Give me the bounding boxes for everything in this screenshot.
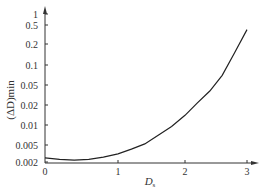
y-tick-label: 0.02 bbox=[21, 100, 39, 111]
x-tick-label: 3 bbox=[245, 166, 250, 177]
y-tick-label: 0.2 bbox=[26, 39, 39, 50]
data-curve bbox=[45, 30, 247, 161]
x-tick-label: 1 bbox=[116, 166, 121, 177]
y-tick-label: 0.1 bbox=[26, 60, 39, 71]
y-tick-label: 0.005 bbox=[16, 140, 39, 151]
chart: 10.50.20.10.050.020.010.0050.002 0123 (Δ… bbox=[0, 0, 263, 192]
x-axis-label: Ds bbox=[144, 175, 156, 189]
y-axis-label: (ΔD)min bbox=[4, 80, 17, 120]
y-tick-label: 0.5 bbox=[26, 20, 39, 31]
y-tick-label: 1 bbox=[33, 9, 38, 20]
x-tick-label: 2 bbox=[183, 166, 188, 177]
x-tick-label: 0 bbox=[43, 166, 48, 177]
y-tick-label: 0.002 bbox=[16, 157, 39, 168]
y-axis-arrow-icon bbox=[43, 6, 47, 14]
y-tick-label: 0.01 bbox=[21, 120, 39, 131]
y-axis-ticks: 10.50.20.10.050.020.010.0050.002 bbox=[16, 9, 49, 168]
y-tick-label: 0.05 bbox=[21, 80, 39, 91]
x-axis-arrow-icon bbox=[251, 161, 259, 165]
